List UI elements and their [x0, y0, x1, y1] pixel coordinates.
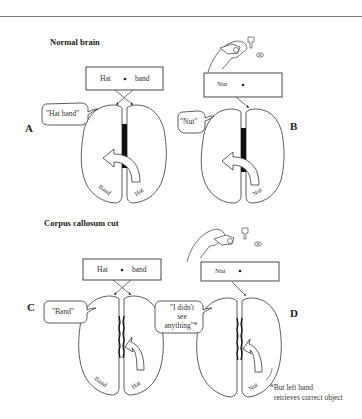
nut-object-d	[228, 239, 233, 244]
screen-word-right-c: band	[132, 265, 147, 274]
fixation-dot-d	[239, 270, 242, 273]
washer-object-d	[255, 242, 262, 246]
bolt-object-d	[242, 228, 248, 239]
speech-text-d-line2: see	[165, 312, 199, 321]
screen-word-b: Nut	[217, 80, 228, 88]
nut-object-b	[234, 48, 239, 53]
corpus-callosum-cut-heading: Corpus callosum cut	[44, 218, 119, 228]
panel-label-a: A	[25, 122, 33, 134]
panel-a-graphics	[42, 67, 166, 203]
panel-label-c: C	[27, 301, 35, 313]
screen-word-left-c: Hat	[97, 265, 108, 274]
fixation-dot-b	[242, 84, 245, 87]
speech-text-b: "Nut"	[180, 117, 197, 126]
screen-word-left-a: Hat	[100, 74, 111, 83]
left-hemisphere-b	[201, 109, 241, 203]
bolt-object-b	[248, 37, 254, 48]
footnote-line2: retrieves correct object	[274, 393, 343, 402]
speech-text-a: "Hat band"	[46, 109, 79, 118]
panel-label-d: D	[290, 307, 298, 319]
panel-label-b: B	[290, 120, 297, 132]
speech-text-d-line1: "I didn't	[165, 303, 199, 312]
hand-d	[187, 229, 225, 262]
fixation-dot-c	[121, 269, 124, 272]
fixation-dot-a	[124, 78, 127, 81]
panel-c-graphics	[44, 259, 163, 395]
normal-brain-heading: Normal brain	[50, 37, 100, 47]
screen-word-d: Nut	[215, 267, 226, 275]
diagram-drawing	[0, 0, 362, 419]
speech-text-d-line3: anything"*	[160, 321, 202, 330]
screen-word-right-a: band	[135, 74, 150, 83]
speech-text-c: "Band"	[52, 307, 74, 316]
right-hemisphere-b	[246, 109, 284, 203]
footnote-line1: *But left hand	[270, 383, 313, 392]
right-hemisphere-a	[127, 105, 166, 203]
washer-object-b	[257, 53, 264, 57]
